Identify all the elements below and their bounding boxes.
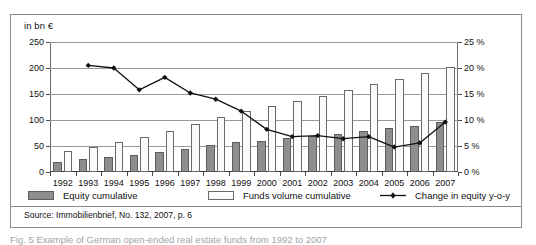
bar-funds-volume-cumulative — [242, 111, 251, 172]
x-axis-tick-label: 2000 — [254, 178, 280, 188]
y-axis-right-tick-label: 5 % — [464, 142, 480, 151]
x-axis-tickmark — [458, 172, 459, 176]
x-axis-tick-label: 2005 — [382, 178, 408, 188]
bar-equity-cumulative — [181, 149, 190, 172]
bar-funds-volume-cumulative — [115, 142, 124, 172]
x-axis-tickmark — [229, 172, 230, 176]
bar-equity-cumulative — [436, 122, 445, 172]
y-axis-left-tick-label: 0 — [39, 168, 44, 177]
bar-group — [152, 42, 178, 172]
bar-funds-volume-cumulative — [64, 151, 73, 172]
filled-square-swatch-icon — [28, 191, 54, 200]
bar-group — [203, 42, 229, 172]
x-axis-tickmark — [382, 172, 383, 176]
legend-item-equity-cumulative: Equity cumulative — [28, 190, 137, 201]
x-axis-tickmark — [152, 172, 153, 176]
y-axis-left-tick-label: 150 — [29, 90, 44, 99]
x-axis-tick-label: 1992 — [50, 178, 76, 188]
x-axis-tickmark — [305, 172, 306, 176]
x-axis-tickmark — [50, 172, 51, 176]
bar-equity-cumulative — [104, 157, 113, 172]
legend-label: Funds volume cumulative — [243, 190, 351, 201]
x-axis-tick-label: 1999 — [229, 178, 255, 188]
bar-group — [407, 42, 433, 172]
y-axis-right-tickmark — [458, 120, 462, 121]
bar-equity-cumulative — [257, 141, 266, 172]
source-divider — [11, 206, 521, 207]
bar-funds-volume-cumulative — [395, 79, 404, 172]
legend-item-funds-volume-cumulative: Funds volume cumulative — [208, 190, 351, 201]
x-axis-tickmark — [331, 172, 332, 176]
x-axis-tick-label: 1995 — [127, 178, 153, 188]
x-axis-tick-label: 1996 — [152, 178, 178, 188]
x-axis-tickmark — [280, 172, 281, 176]
x-axis-tickmark — [76, 172, 77, 176]
y-axis-right-tickmark — [458, 146, 462, 147]
figure-container: in bn € 050100150200250 0 %5 %10 %15 %20… — [10, 14, 522, 228]
bar-funds-volume-cumulative — [446, 67, 455, 172]
bar-funds-volume-cumulative — [166, 131, 175, 172]
bar-funds-volume-cumulative — [191, 124, 200, 172]
bar-equity-cumulative — [283, 138, 292, 172]
x-axis-tickmark — [178, 172, 179, 176]
y-axis-right-tick-label: 25 % — [464, 38, 485, 47]
bar-equity-cumulative — [79, 159, 88, 172]
y-axis-unit-label: in bn € — [24, 20, 53, 31]
bar-group — [178, 42, 204, 172]
bar-group — [356, 42, 382, 172]
y-axis-left-tick-label: 250 — [29, 38, 44, 47]
legend-item-change-in-equity: Change in equity y-o-y — [380, 190, 510, 201]
bar-group — [331, 42, 357, 172]
x-axis-tick-label: 1993 — [76, 178, 102, 188]
x-axis-tick-label: 1998 — [203, 178, 229, 188]
y-axis-right-tick-label: 20 % — [464, 64, 485, 73]
bar-funds-volume-cumulative — [268, 106, 277, 172]
bar-equity-cumulative — [53, 162, 62, 172]
y-axis-left-tick-label: 100 — [29, 116, 44, 125]
source-note: Source: Immobilienbrief, No. 132, 2007, … — [24, 210, 192, 220]
bar-group — [101, 42, 127, 172]
x-axis-tickmark — [127, 172, 128, 176]
x-axis-tick-label: 1997 — [178, 178, 204, 188]
y-axis-left-tick-label: 50 — [34, 142, 44, 151]
x-axis-tickmark — [254, 172, 255, 176]
chart-legend: Equity cumulative Funds volume cumulativ… — [28, 190, 506, 206]
plot-area: 050100150200250 0 %5 %10 %15 %20 %25 % 1… — [50, 42, 458, 172]
bar-equity-cumulative — [232, 142, 241, 172]
x-axis-tickmark — [101, 172, 102, 176]
bar-group — [76, 42, 102, 172]
bar-equity-cumulative — [359, 131, 368, 172]
bar-equity-cumulative — [410, 126, 419, 172]
figure-caption: Fig. 5 Example of German open-ended real… — [10, 234, 327, 245]
bar-group — [229, 42, 255, 172]
bar-equity-cumulative — [385, 128, 394, 172]
y-axis-right-tick-label: 15 % — [464, 90, 485, 99]
bar-funds-volume-cumulative — [370, 84, 379, 172]
bar-funds-volume-cumulative — [293, 101, 302, 172]
x-axis-tick-label: 2002 — [305, 178, 331, 188]
y-axis-right-tick-label: 10 % — [464, 116, 485, 125]
y-axis-right-tickmark — [458, 94, 462, 95]
y-axis-right-tick-label: 0 % — [464, 168, 480, 177]
bar-funds-volume-cumulative — [140, 137, 149, 172]
bar-funds-volume-cumulative — [421, 73, 430, 172]
x-axis-tickmark — [433, 172, 434, 176]
bar-equity-cumulative — [130, 155, 139, 172]
bar-funds-volume-cumulative — [344, 90, 353, 172]
bar-group — [254, 42, 280, 172]
bar-group — [433, 42, 459, 172]
y-axis-right-tickmark — [458, 42, 462, 43]
bar-equity-cumulative — [155, 152, 164, 172]
bar-group — [127, 42, 153, 172]
x-axis-tick-label: 1994 — [101, 178, 127, 188]
x-axis-tick-label: 2004 — [356, 178, 382, 188]
x-axis-tick-label: 2006 — [407, 178, 433, 188]
y-axis-left-tick-label: 200 — [29, 64, 44, 73]
x-axis-tick-label: 2003 — [331, 178, 357, 188]
bar-group — [280, 42, 306, 172]
bar-group — [305, 42, 331, 172]
x-axis-tick-label: 2001 — [280, 178, 306, 188]
x-axis-tickmark — [407, 172, 408, 176]
bar-funds-volume-cumulative — [217, 117, 226, 172]
legend-label: Change in equity y-o-y — [415, 190, 510, 201]
